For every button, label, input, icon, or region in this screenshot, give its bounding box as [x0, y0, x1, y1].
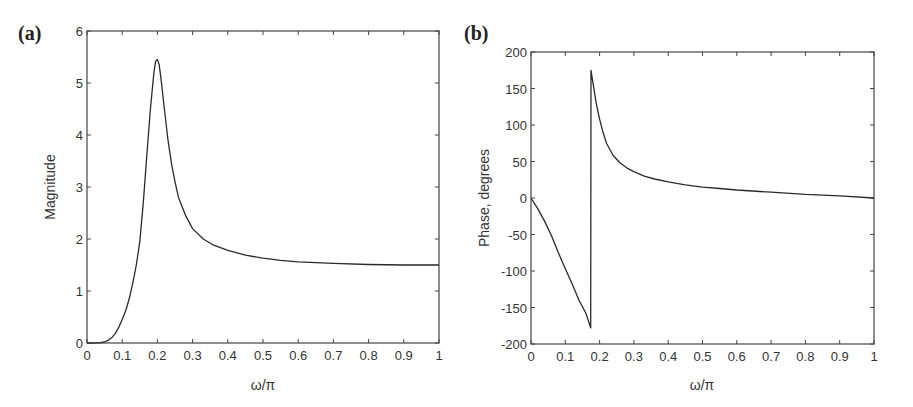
magnitude-tick-labels: 00.10.20.30.40.50.60.70.80.910123456 [76, 24, 443, 363]
y-tick-label: 0 [76, 336, 83, 351]
y-tick-label: -150 [501, 301, 527, 316]
magnitude-plot-panel: (a) 00.10.20.30.40.50.60.70.80.910123456… [0, 0, 456, 407]
x-tick-label: 0.3 [625, 349, 643, 364]
x-tick-label: 0.8 [796, 349, 814, 364]
y-tick-label: 6 [76, 24, 83, 39]
phase-tick-labels: 00.10.20.30.40.50.60.70.80.91-200-150-10… [501, 45, 878, 364]
x-tick-label: 0.8 [360, 348, 378, 363]
y-tick-label: 100 [505, 118, 527, 133]
y-tick-label: 150 [505, 82, 527, 97]
phase-plot-frame [531, 52, 874, 344]
x-tick-label: 0.4 [659, 349, 677, 364]
y-tick-label: 4 [76, 128, 83, 143]
x-tick-label: 0.6 [289, 348, 307, 363]
magnitude-x-axis-title: ω/π [251, 377, 276, 393]
y-tick-label: 1 [76, 284, 83, 299]
phase-plot-panel: (b) 00.10.20.30.40.50.60.70.80.91-200-15… [456, 0, 913, 407]
x-tick-label: 0.3 [184, 348, 202, 363]
y-tick-label: 5 [76, 76, 83, 91]
phase-curve [531, 70, 874, 328]
x-tick-label: 0.9 [395, 348, 413, 363]
x-tick-label: 0.1 [556, 349, 574, 364]
x-tick-label: 0.6 [728, 349, 746, 364]
y-tick-label: -100 [501, 264, 527, 279]
x-tick-label: 0.9 [831, 349, 849, 364]
phase-x-axis-title: ω/π [690, 377, 715, 393]
magnitude-y-axis-title: Magnitude [42, 154, 58, 220]
x-tick-label: 0.7 [324, 348, 342, 363]
magnitude-chart: (a) 00.10.20.30.40.50.60.70.80.910123456… [0, 0, 456, 407]
y-tick-label: 3 [76, 180, 83, 195]
phase-axes-ticks [531, 52, 874, 344]
x-tick-label: 1 [870, 349, 877, 364]
x-tick-label: 0.2 [148, 348, 166, 363]
magnitude-plot-frame [87, 31, 439, 343]
y-tick-label: 200 [505, 45, 527, 60]
y-tick-label: -50 [508, 228, 527, 243]
x-tick-label: 0 [527, 349, 534, 364]
panel-label-a: (a) [18, 22, 41, 45]
phase-y-axis-title: Phase, degrees [476, 149, 492, 247]
x-tick-label: 0.1 [113, 348, 131, 363]
panel-label-b: (b) [464, 22, 488, 45]
magnitude-axes-ticks [87, 31, 439, 343]
y-tick-label: 2 [76, 232, 83, 247]
y-tick-label: 50 [513, 155, 527, 170]
x-tick-label: 0.2 [591, 349, 609, 364]
x-tick-label: 0 [83, 348, 90, 363]
x-tick-label: 0.4 [219, 348, 237, 363]
phase-chart: (b) 00.10.20.30.40.50.60.70.80.91-200-15… [456, 0, 913, 407]
x-tick-label: 0.5 [693, 349, 711, 364]
x-tick-label: 0.7 [762, 349, 780, 364]
y-tick-label: -200 [501, 337, 527, 352]
y-tick-label: 0 [520, 191, 527, 206]
x-tick-label: 0.5 [254, 348, 272, 363]
magnitude-curve [87, 60, 439, 343]
x-tick-label: 1 [435, 348, 442, 363]
